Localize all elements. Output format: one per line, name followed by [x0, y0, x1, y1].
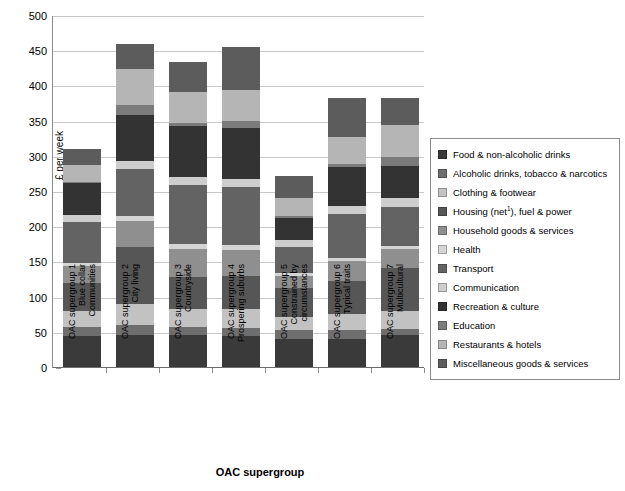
x-tickmark	[212, 368, 213, 373]
legend-item[interactable]: Restaurants & hotels	[435, 335, 615, 354]
bar-segment	[275, 176, 313, 198]
legend-label: Restaurants & hotels	[453, 340, 541, 350]
legend-item[interactable]: Alcoholic drinks, tobacco & narcotics	[435, 164, 615, 183]
x-tickmark	[265, 368, 266, 373]
legend-item[interactable]: Miscellaneous goods & services	[435, 354, 615, 373]
bar-segment	[381, 198, 419, 207]
x-tickmark	[106, 368, 107, 373]
bar-segment	[328, 214, 366, 258]
x-axis-label: OAC supergroup 4Prospering suburbs	[226, 264, 240, 374]
bar-segment	[275, 198, 313, 216]
legend-label: Clothing & footwear	[453, 188, 536, 198]
bar-segment	[328, 167, 366, 206]
legend-label: Household goods & services	[453, 226, 573, 236]
bar-segment	[328, 98, 366, 137]
x-axis-label: OAC supergroup 7Multicultural	[385, 264, 399, 374]
bar-segment	[63, 149, 101, 165]
y-tick-label: 100	[13, 293, 47, 303]
y-tick-label: 500	[13, 11, 47, 21]
bar-segment	[169, 185, 207, 244]
bar-segment	[116, 105, 154, 116]
x-axis-label-line: OAC supergroup 3	[173, 264, 183, 374]
bar-segment	[381, 157, 419, 165]
x-tickmark	[371, 368, 372, 373]
bar-segment	[116, 169, 154, 216]
bar-segment	[116, 115, 154, 161]
legend-label: Health	[453, 245, 480, 255]
legend-swatch-icon	[438, 188, 447, 197]
legend-swatch-icon	[438, 359, 447, 368]
legend-item[interactable]: Household goods & services	[435, 221, 615, 240]
bar-segment	[63, 222, 101, 263]
legend-item[interactable]: Recreation & culture	[435, 297, 615, 316]
x-tickmark	[318, 368, 319, 373]
x-tickmark	[424, 368, 425, 373]
x-axis-label-line: OAC supergroup 1	[67, 264, 77, 374]
legend-label: Housing (net1), fuel & power	[453, 207, 572, 217]
legend-item[interactable]: Health	[435, 240, 615, 259]
x-tickmark	[159, 368, 160, 373]
y-tick-label: 50	[13, 328, 47, 338]
bar-segment	[381, 207, 419, 246]
bar-segment	[222, 187, 260, 245]
x-axis-label-line: circumstances	[299, 264, 309, 374]
legend-swatch-icon	[438, 340, 447, 349]
legend-swatch-icon	[438, 226, 447, 235]
bar-segment	[275, 218, 313, 241]
y-axis-ticks: 500450400350300250200150100500	[9, 0, 47, 491]
bar-segment	[116, 221, 154, 248]
x-axis-label-line: OAC supergroup 2	[120, 264, 130, 374]
y-tick-label: 350	[13, 117, 47, 127]
bar-segment	[381, 98, 419, 125]
y-tick-label: 0	[13, 363, 47, 373]
bar-segment	[116, 161, 154, 169]
x-axis-label-line: Communities	[87, 264, 97, 374]
legend-item[interactable]: Clothing & footwear	[435, 183, 615, 202]
x-axis-label: OAC supergroup 3Countryside	[173, 264, 187, 374]
x-axis-title: OAC supergroup	[150, 466, 370, 478]
legend-item[interactable]: Food & non-alcoholic drinks	[435, 145, 615, 164]
legend-item[interactable]: Communication	[435, 278, 615, 297]
y-tick-label: 400	[13, 81, 47, 91]
legend-label: Education	[453, 321, 495, 331]
bar-segment	[222, 47, 260, 90]
x-axis-label-line: City living	[130, 264, 140, 374]
legend-label: Alcoholic drinks, tobacco & narcotics	[453, 169, 607, 179]
y-tickmark	[56, 368, 61, 369]
legend-swatch-icon	[438, 207, 447, 216]
x-axis-label-line: OAC supergroup 4	[226, 264, 236, 374]
x-axis-label: OAC supergroup 2City living	[120, 264, 134, 374]
x-axis-label-line: Blue collar	[77, 264, 87, 374]
legend-item[interactable]: Transport	[435, 259, 615, 278]
legend-label: Transport	[453, 264, 493, 274]
x-axis-label-line: OAC supergroup 5	[279, 264, 289, 374]
bar-segment	[63, 183, 101, 215]
bar-segment	[222, 128, 260, 179]
bar-segment	[169, 62, 207, 92]
x-axis-label: OAC supergroup 5Constrained bycircumstan…	[279, 264, 293, 374]
legend-swatch-icon	[438, 264, 447, 273]
footnote-marker: 1	[507, 204, 511, 211]
y-tick-label: 300	[13, 152, 47, 162]
bar-segment	[381, 125, 419, 157]
bar-segment	[63, 215, 101, 222]
legend-swatch-icon	[438, 169, 447, 178]
bar-segment	[169, 126, 207, 177]
x-axis-label: OAC supergroup 6Typical traits	[332, 264, 346, 374]
x-axis-label-line: Constrained by	[289, 264, 299, 374]
y-tick-label: 250	[13, 187, 47, 197]
x-axis-label-line: Typical traits	[342, 264, 352, 374]
x-axis-label-line: OAC supergroup 6	[332, 264, 342, 374]
x-axis-label-line: Prospering suburbs	[236, 264, 246, 374]
legend-item[interactable]: Education	[435, 316, 615, 335]
bar-segment	[116, 69, 154, 104]
legend-label: Food & non-alcoholic drinks	[453, 150, 570, 160]
x-axis-label-line: Countryside	[183, 264, 193, 374]
x-axis-label-line: Multicultural	[395, 264, 405, 374]
legend-swatch-icon	[438, 321, 447, 330]
legend-label: Communication	[453, 283, 519, 293]
legend-item[interactable]: Housing (net1), fuel & power	[435, 202, 615, 221]
x-axis-label-line: OAC supergroup 7	[385, 264, 395, 374]
legend-swatch-icon	[438, 283, 447, 292]
bar-segment	[169, 177, 207, 185]
